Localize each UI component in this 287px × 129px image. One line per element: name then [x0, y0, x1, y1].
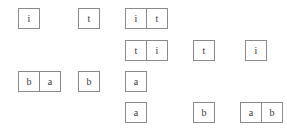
cell-label: t	[156, 13, 159, 23]
cell-group: it	[125, 8, 168, 29]
cell-label: a	[134, 107, 138, 117]
grid-cell[interactable]: i	[146, 40, 168, 61]
cell-label: t	[135, 45, 138, 55]
grid-cell[interactable]: b	[193, 102, 215, 123]
cell-label: i	[28, 13, 31, 23]
cell-label: a	[48, 76, 52, 86]
grid-cell[interactable]: t	[125, 40, 147, 61]
cell-label: a	[249, 107, 253, 117]
cell-label: t	[203, 45, 206, 55]
cell-group: t	[78, 8, 100, 29]
grid-cell[interactable]: t	[78, 8, 100, 29]
cell-label: b	[270, 107, 275, 117]
grid-cell[interactable]: a	[39, 71, 61, 92]
grid-cell[interactable]: a	[240, 102, 262, 123]
cell-group: ti	[125, 40, 168, 61]
cell-label: b	[87, 76, 92, 86]
grid-cell[interactable]: a	[125, 71, 147, 92]
cell-label: a	[134, 76, 138, 86]
grid-cell[interactable]: b	[18, 71, 40, 92]
cell-group: a	[125, 71, 147, 92]
cell-label: t	[88, 13, 91, 23]
cell-label: b	[202, 107, 207, 117]
cell-group: ab	[240, 102, 283, 123]
cell-group: i	[18, 8, 40, 29]
cell-label: i	[135, 13, 138, 23]
grid-cell[interactable]: i	[245, 40, 267, 61]
grid-cell[interactable]: t	[193, 40, 215, 61]
grid-cell[interactable]: b	[78, 71, 100, 92]
grid-cell[interactable]: b	[261, 102, 283, 123]
grid-cell[interactable]: t	[146, 8, 168, 29]
cell-group: b	[193, 102, 215, 123]
cell-group: ba	[18, 71, 61, 92]
grid-cell[interactable]: i	[125, 8, 147, 29]
cell-label: b	[27, 76, 32, 86]
cell-group: t	[193, 40, 215, 61]
cell-group: a	[125, 102, 147, 123]
cell-group: i	[245, 40, 267, 61]
grid-cell[interactable]: i	[18, 8, 40, 29]
cell-group: b	[78, 71, 100, 92]
cell-label: i	[255, 45, 258, 55]
cell-grid-diagram: itittitibabaabab	[0, 0, 287, 129]
grid-cell[interactable]: a	[125, 102, 147, 123]
cell-label: i	[156, 45, 159, 55]
